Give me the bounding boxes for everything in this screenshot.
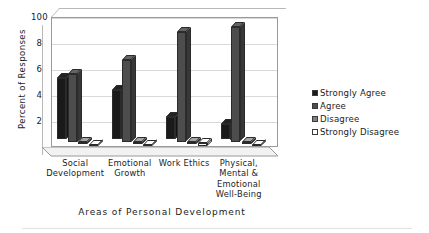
bar-group: [112, 18, 153, 146]
plot-depth-left-face: [42, 17, 51, 155]
bar-front-face: [231, 27, 240, 141]
bar-front-face: [57, 78, 66, 139]
bar-front-face: [221, 124, 230, 140]
bar: [177, 32, 186, 141]
legend-item: Agree: [312, 99, 416, 112]
legend-swatch-icon: [312, 90, 318, 96]
bar: [112, 90, 121, 139]
x-axis-category-labels: SocialDevelopmentEmotionalGrowthWork Eth…: [42, 158, 287, 204]
bar: [198, 143, 207, 146]
bar-front-face: [112, 90, 121, 139]
bar: [89, 145, 98, 147]
bar-front-face: [242, 142, 251, 144]
legend-item: Strongly Agree: [312, 86, 416, 99]
bar-front-face: [133, 142, 142, 144]
bar-group: [57, 18, 98, 146]
legend-item: Disagree: [312, 112, 416, 125]
bar-front-face: [198, 143, 207, 146]
x-category-label-line: Physical,: [201, 158, 278, 168]
bar-group: [166, 18, 207, 146]
legend-item-label: Strongly Agree: [320, 88, 386, 98]
bar-front-face: [68, 74, 77, 142]
x-category-label-line: Emotional: [201, 179, 278, 189]
bar-front-face: [177, 32, 186, 141]
x-category-label-line: Well-Being: [201, 189, 278, 199]
bar-side-face: [131, 55, 136, 142]
bar: [242, 142, 251, 144]
plot-area: [51, 17, 278, 147]
legend-item-label: Strongly Disagree: [320, 127, 399, 137]
bar: [231, 27, 240, 141]
bar-side-face: [186, 28, 191, 142]
bar-side-face: [240, 22, 245, 141]
bar: [133, 142, 142, 144]
plot-depth-top-face: [51, 8, 286, 17]
bar-side-face: [77, 69, 82, 141]
bar-front-face: [187, 142, 196, 144]
x-category-label-line: Mental &: [201, 168, 278, 178]
bar: [78, 142, 87, 144]
bar: [57, 78, 66, 139]
bar: [252, 145, 261, 147]
bar-front-face: [122, 60, 131, 142]
x-category-label-line: Growth: [92, 168, 169, 178]
bar: [143, 145, 152, 147]
legend-swatch-icon: [312, 129, 318, 135]
bar-front-face: [78, 142, 87, 144]
bar-group: [221, 18, 262, 146]
bar: [122, 60, 131, 142]
bar: [187, 142, 196, 144]
legend-swatch-icon: [312, 103, 318, 109]
bar: [68, 74, 77, 142]
chart-legend: Strongly AgreeAgreeDisagreeStrongly Disa…: [312, 86, 416, 138]
plot-floor: [42, 147, 278, 156]
legend-item-label: Disagree: [320, 114, 359, 124]
bar-front-face: [166, 117, 175, 139]
legend-swatch-icon: [312, 116, 318, 122]
x-category-label: Physical,Mental &EmotionalWell-Being: [201, 158, 278, 200]
bar: [221, 124, 230, 140]
legend-item-label: Agree: [320, 101, 346, 111]
footer-divider: [22, 228, 412, 229]
bar: [166, 117, 175, 139]
bar-chart: Percent of Responses 100806040200 Social…: [0, 0, 429, 233]
x-axis-title: Areas of Personal Development: [42, 207, 282, 217]
legend-item: Strongly Disagree: [312, 125, 416, 138]
